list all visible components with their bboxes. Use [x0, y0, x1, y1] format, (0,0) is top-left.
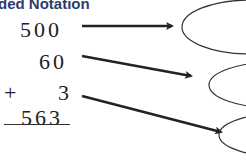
arrow-2 — [82, 56, 191, 76]
arrow-3 — [82, 96, 221, 132]
arrows-and-ovals — [0, 0, 246, 165]
answer-oval-3[interactable] — [219, 113, 246, 157]
answer-oval-1[interactable] — [182, 0, 246, 54]
answer-oval-2[interactable] — [209, 62, 246, 108]
